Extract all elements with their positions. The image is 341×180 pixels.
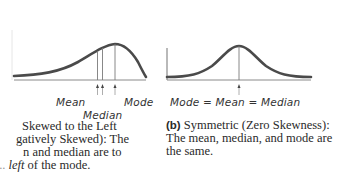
mode-mean-median-label: Mode = Mean = Median bbox=[170, 96, 300, 108]
skewness-figure: Mean Mode Median Skewed to the Left gati… bbox=[0, 0, 341, 180]
symmetric-curve-diagram bbox=[160, 0, 341, 95]
mean-arrow-icon bbox=[96, 84, 99, 88]
left-skewed-curve-diagram bbox=[0, 0, 170, 95]
left-caption-line-4: ... left of the mode. bbox=[0, 159, 90, 172]
mean-leader bbox=[92, 88, 98, 95]
left-caption-prefix: ... bbox=[0, 158, 5, 172]
left-skewed-curve bbox=[14, 44, 146, 77]
mode-label: Mode bbox=[124, 96, 153, 108]
median-arrow-icon bbox=[101, 84, 104, 88]
mode-leader bbox=[115, 88, 121, 95]
left-caption-suffix: of the mode. bbox=[24, 158, 90, 172]
mode-arrow-icon bbox=[114, 84, 117, 88]
center-arrow-icon bbox=[238, 84, 241, 88]
mean-label: Mean bbox=[56, 96, 85, 108]
right-caption-text-1: Symmetric (Zero Skewness): bbox=[184, 118, 330, 132]
panel-b-label: (b) bbox=[166, 119, 181, 131]
right-caption-line-3: the same. bbox=[166, 145, 213, 158]
left-caption-italic: left bbox=[9, 158, 25, 172]
